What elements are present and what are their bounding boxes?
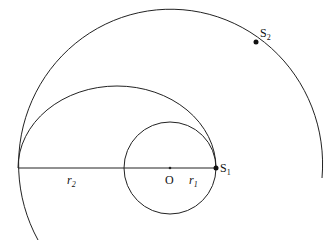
s2-point bbox=[254, 40, 259, 45]
outer-orbit-arc bbox=[19, 9, 323, 240]
r2-label: r2 bbox=[67, 173, 76, 189]
diagram-canvas: O S1 S2 r1 r2 bbox=[0, 0, 336, 247]
s1-label: S1 bbox=[220, 161, 231, 177]
orbit-diagram: O S1 S2 r1 r2 bbox=[0, 0, 336, 247]
center-label: O bbox=[165, 173, 174, 187]
s1-point bbox=[214, 166, 219, 171]
r1-label: r1 bbox=[189, 173, 198, 189]
center-point bbox=[169, 167, 172, 170]
transfer-orbit-arc bbox=[18, 86, 216, 168]
s2-label: S2 bbox=[260, 26, 271, 42]
